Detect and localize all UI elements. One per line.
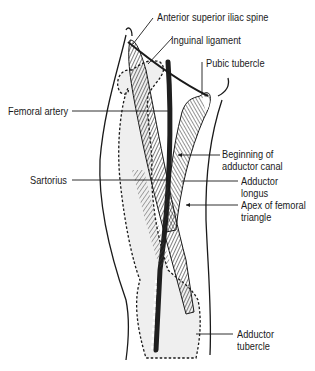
label-apex-femoral-triangle-line1: Apex of femoral <box>241 199 306 211</box>
label-beginning-adductor-canal-line2: adductor canal <box>222 160 283 172</box>
label-adductor-longus-line1: Adductor <box>241 175 278 187</box>
anatomy-diagram: Anterior superior iliac spine Inguinal l… <box>0 0 315 371</box>
label-pubic-tubercle: Pubic tubercle <box>206 57 265 69</box>
label-apex-femoral-triangle-line2: triangle <box>241 211 271 223</box>
label-anterior-superior-iliac-spine: Anterior superior iliac spine <box>157 11 268 23</box>
thigh-outline-right <box>206 100 222 355</box>
label-inguinal-ligament: Inguinal ligament <box>171 34 241 46</box>
label-adductor-tubercle-line1: Adductor <box>237 328 274 340</box>
label-femoral-artery: Femoral artery <box>8 105 68 117</box>
label-adductor-tubercle-line2: tubercle <box>237 340 270 352</box>
label-adductor-longus-line2: longus <box>241 187 268 199</box>
label-sartorius: Sartorius <box>30 174 67 186</box>
label-beginning-adductor-canal-line1: Beginning of <box>222 148 273 160</box>
